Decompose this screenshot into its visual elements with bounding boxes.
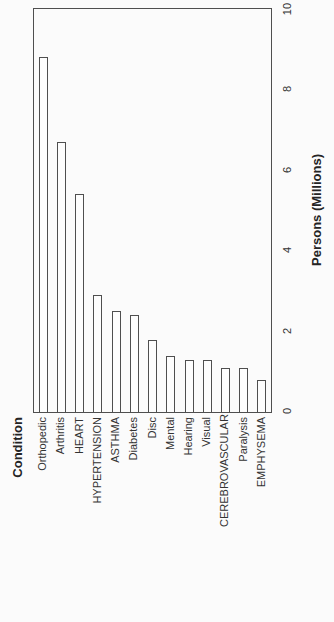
bar <box>221 368 230 412</box>
category-label: CEREBROVASCULAR <box>218 417 230 527</box>
plot-area <box>33 8 272 413</box>
value-tick-label: 2 <box>281 319 293 343</box>
bar <box>239 368 248 412</box>
value-tick-label: 4 <box>281 238 293 262</box>
bar <box>185 360 194 412</box>
value-axis-title: Persons (Millions) <box>309 140 325 280</box>
category-axis-title: Condition <box>10 417 26 497</box>
bar <box>166 356 175 412</box>
value-tick-label: 6 <box>281 158 293 182</box>
category-label: EMPHYSEMA <box>255 417 267 527</box>
bar <box>93 295 102 412</box>
bar <box>130 315 139 412</box>
category-label: Diabetes <box>127 417 139 527</box>
value-tick-label: 0 <box>281 399 293 423</box>
bar <box>203 360 212 412</box>
category-label: Arthritis <box>54 417 66 527</box>
category-label: Paralysis <box>237 417 249 527</box>
category-label: Hearing <box>182 417 194 527</box>
bar <box>57 142 66 412</box>
category-label: Visual <box>200 417 212 527</box>
category-label: Mental <box>164 417 176 527</box>
bar <box>148 340 157 413</box>
category-label: ASTHMA <box>109 417 121 527</box>
bar <box>257 380 266 412</box>
category-label: HEART <box>73 417 85 527</box>
value-tick-label: 8 <box>281 77 293 101</box>
bar <box>75 194 84 412</box>
category-label: Disc <box>146 417 158 527</box>
category-label: Orthopedic <box>36 417 48 527</box>
bar <box>112 311 121 412</box>
scanned-chart-page: Condition Persons (Millions) OrthopedicA… <box>0 0 334 622</box>
bar <box>39 57 48 412</box>
category-label: HYPERTENSION <box>91 417 103 527</box>
value-tick-label: 10 <box>281 0 293 21</box>
